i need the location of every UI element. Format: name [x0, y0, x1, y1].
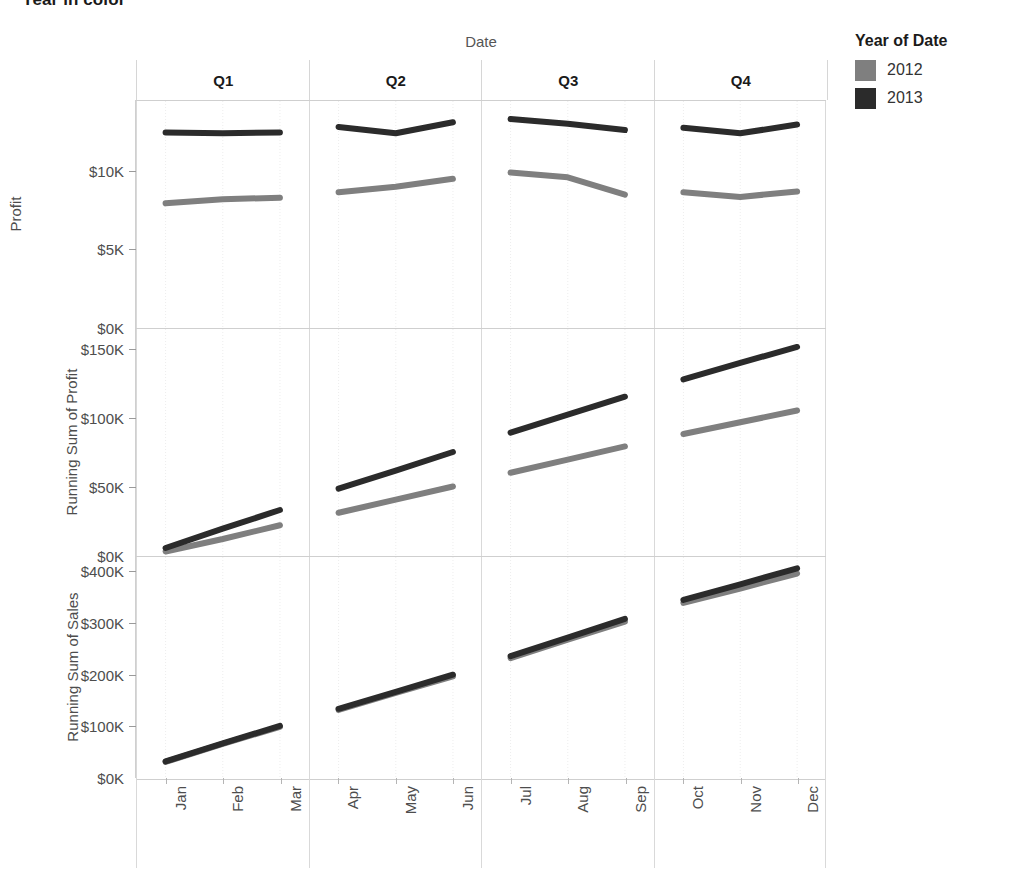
- y-axis-profit: $10K$5K$0KProfit: [0, 100, 136, 328]
- y-tick-label: $100K: [81, 718, 124, 735]
- y-tick-mark: [129, 349, 136, 350]
- legend-swatch-icon: [855, 88, 876, 109]
- x-tick-label: Jul: [517, 786, 534, 805]
- x-tick-mark: [281, 778, 282, 784]
- y-axis-running-sum-of-profit: $150K$100K$50K$0KRunning Sum of Profit: [0, 328, 136, 556]
- y-tick-mark: [129, 171, 136, 172]
- panel-cell[interactable]: [136, 101, 309, 329]
- x-tick-label: Jan: [172, 786, 189, 810]
- x-tick-mark: [396, 778, 397, 784]
- panel-grid: [136, 100, 826, 778]
- y-tick-mark: [129, 487, 136, 488]
- panel-cell[interactable]: [654, 329, 827, 557]
- y-axis-title: Profit: [7, 196, 24, 231]
- x-tick-mark: [338, 778, 339, 784]
- panel-cell[interactable]: [654, 101, 827, 329]
- y-tick-label: $5K: [97, 241, 124, 258]
- y-tick-label: $300K: [81, 615, 124, 632]
- y-axis-title: Running Sum of Sales: [64, 592, 81, 741]
- panel-cell[interactable]: [136, 557, 309, 779]
- x-axis-quarter-cell: JulAugSep: [481, 778, 654, 868]
- y-tick-label: $50K: [89, 478, 124, 495]
- x-tick-label: Jun: [459, 786, 476, 810]
- x-tick-mark: [568, 778, 569, 784]
- visualization-root: Year in color Year of Date 2012 2013 Dat…: [0, 0, 1024, 872]
- legend: Year of Date 2012 2013: [855, 32, 1020, 112]
- quarter-header-q4: Q4: [654, 60, 829, 100]
- legend-item-label: 2013: [887, 89, 923, 107]
- panel-row-profit: [136, 100, 826, 329]
- y-axis-line: [135, 328, 136, 556]
- panel-cell[interactable]: [309, 557, 482, 779]
- x-axis-quarter-cell: AprMayJun: [309, 778, 482, 868]
- panel-row-running-sum-of-profit: [136, 328, 826, 557]
- x-axis: JanFebMarAprMayJunJulAugSepOctNovDec: [136, 778, 826, 868]
- quarter-header-q3: Q3: [481, 60, 655, 100]
- panel-cell[interactable]: [654, 557, 827, 779]
- y-tick-label: $200K: [81, 666, 124, 683]
- y-tick-label: $10K: [89, 162, 124, 179]
- legend-item[interactable]: 2012: [855, 56, 1020, 84]
- x-tick-label: Dec: [804, 786, 821, 813]
- y-tick-label: $0K: [97, 770, 124, 787]
- legend-item-label: 2012: [887, 61, 923, 79]
- y-tick-label: $150K: [81, 340, 124, 357]
- x-tick-label: Feb: [229, 786, 246, 812]
- panel-cell[interactable]: [136, 329, 309, 557]
- legend-swatch-icon: [855, 60, 876, 81]
- y-tick-mark: [129, 571, 136, 572]
- y-axis-running-sum-of-sales: $400K$300K$200K$100K$0KRunning Sum of Sa…: [0, 556, 136, 778]
- x-tick-label: Apr: [344, 786, 361, 809]
- legend-title: Year of Date: [855, 32, 1020, 50]
- y-tick-label: $100K: [81, 409, 124, 426]
- y-tick-mark: [129, 675, 136, 676]
- y-tick-mark: [129, 726, 136, 727]
- panel-cell[interactable]: [309, 329, 482, 557]
- y-axis-line: [135, 556, 136, 778]
- column-header-title: Date: [136, 33, 826, 50]
- x-tick-mark: [798, 778, 799, 784]
- y-tick-mark: [129, 623, 136, 624]
- panel-cell[interactable]: [309, 101, 482, 329]
- y-tick-mark: [129, 418, 136, 419]
- x-tick-mark: [741, 778, 742, 784]
- x-tick-mark: [223, 778, 224, 784]
- x-tick-mark: [626, 778, 627, 784]
- x-tick-label: Mar: [287, 786, 304, 812]
- x-tick-mark: [453, 778, 454, 784]
- panel-cell[interactable]: [481, 329, 654, 557]
- x-tick-label: May: [402, 786, 419, 814]
- quarter-header-q1: Q1: [136, 60, 310, 100]
- x-tick-mark: [683, 778, 684, 784]
- y-axis-line: [135, 100, 136, 328]
- x-tick-mark: [511, 778, 512, 784]
- y-axis-title: Running Sum of Profit: [63, 369, 80, 516]
- quarter-header-q2: Q2: [309, 60, 483, 100]
- x-tick-mark: [166, 778, 167, 784]
- y-tick-label: $400K: [81, 563, 124, 580]
- panel-cell[interactable]: [481, 557, 654, 779]
- legend-item[interactable]: 2013: [855, 84, 1020, 112]
- x-axis-quarter-cell: OctNovDec: [654, 778, 827, 868]
- quarter-header-band: Q1Q2Q3Q4: [136, 60, 826, 100]
- x-tick-label: Aug: [574, 786, 591, 813]
- panel-row-running-sum-of-sales: [136, 556, 826, 780]
- x-tick-label: Nov: [747, 786, 764, 813]
- page-title: Year in color: [22, 0, 125, 10]
- x-tick-label: Oct: [689, 786, 706, 809]
- x-axis-quarter-cell: JanFebMar: [136, 778, 309, 868]
- x-tick-label: Sep: [632, 786, 649, 813]
- y-tick-mark: [129, 249, 136, 250]
- panel-cell[interactable]: [481, 101, 654, 329]
